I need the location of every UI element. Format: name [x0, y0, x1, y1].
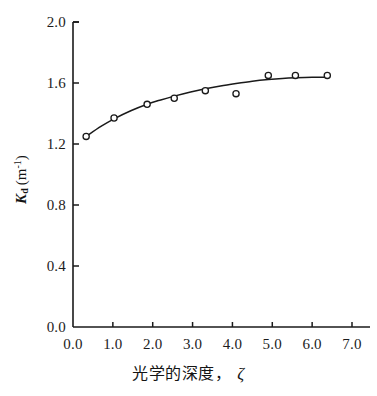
data-point [83, 133, 89, 139]
x-tick-label: 7.0 [342, 336, 361, 353]
x-axis-symbol-zeta: ζ [231, 364, 244, 383]
data-point [233, 91, 239, 97]
data-point [171, 95, 177, 101]
fitted-curve [86, 77, 327, 136]
chart-figure: 0.00.40.81.21.62.0 0.01.02.03.04.05.06.0… [0, 0, 377, 396]
y-tick-label: 0.8 [47, 197, 66, 214]
data-point [144, 101, 150, 107]
data-point [111, 115, 117, 121]
data-point [265, 72, 271, 78]
fit-line [86, 77, 327, 136]
x-tick-label: 4.0 [223, 336, 242, 353]
x-axis-title-text: 光学的深度， [132, 365, 231, 382]
data-point [292, 72, 298, 78]
x-axis-title: 光学的深度，ζ [0, 360, 377, 384]
x-tick-label: 5.0 [263, 336, 282, 353]
y-axis-title: Kd(m-1) [4, 118, 38, 242]
data-markers [83, 72, 330, 139]
x-tick-label: 0.0 [63, 336, 82, 353]
y-tick-label: 1.6 [47, 75, 66, 92]
y-axis-unit-open: (m [12, 169, 28, 189]
y-axis-unit-close: ) [12, 156, 28, 161]
x-tick-label: 1.0 [103, 336, 122, 353]
axis-ticks [73, 22, 352, 327]
axes-group [73, 22, 370, 327]
x-tick-label: 6.0 [302, 336, 321, 353]
x-tick-label: 3.0 [183, 336, 202, 353]
y-tick-label: 0.0 [47, 319, 66, 336]
y-tick-label: 0.4 [47, 258, 66, 275]
y-tick-label: 1.2 [47, 136, 66, 153]
y-tick-label: 2.0 [47, 14, 66, 31]
y-axis-unit-exponent: -1 [11, 161, 22, 169]
x-tick-label: 2.0 [143, 336, 162, 353]
data-point [324, 72, 330, 78]
y-axis-symbol: K [12, 194, 28, 204]
y-axis-subscript: d [19, 189, 30, 195]
data-point [202, 88, 208, 94]
